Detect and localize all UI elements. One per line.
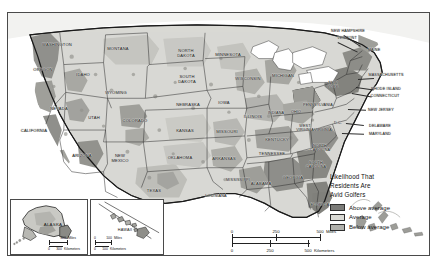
alaska-graphic [11,200,87,254]
legend-entry-average: Average [330,214,427,222]
map-legend: Likelihood That Residents Are Avid Golfe… [330,173,427,233]
inset-alaska: ALASKA 300 Miles 0 300 Kilometers [10,199,88,255]
map-page: WASHINGTONOREGONIDAHOMONTANANORTH DAKOTA… [0,0,437,268]
legend-label-below-average: Below average [349,224,389,230]
legend-title: Likelihood That Residents Are Avid Golfe… [330,173,427,200]
legend-label-average: Average [349,214,372,220]
map-plate: WASHINGTONOREGONIDAHOMONTANANORTH DAKOTA… [7,12,430,256]
legend-swatch-average [330,214,345,222]
hawaii-graphic [91,200,163,254]
legend-swatch-above-average [330,204,345,212]
legend-entry-above-average: Above average [330,204,427,212]
legend-entry-below-average: Below average [330,224,427,232]
inset-hawaii: HAWAII 0 100 Miles 0 100 Kilometers [90,199,164,255]
legend-label-above-average: Above average [349,205,390,211]
legend-swatch-below-average [330,224,345,232]
